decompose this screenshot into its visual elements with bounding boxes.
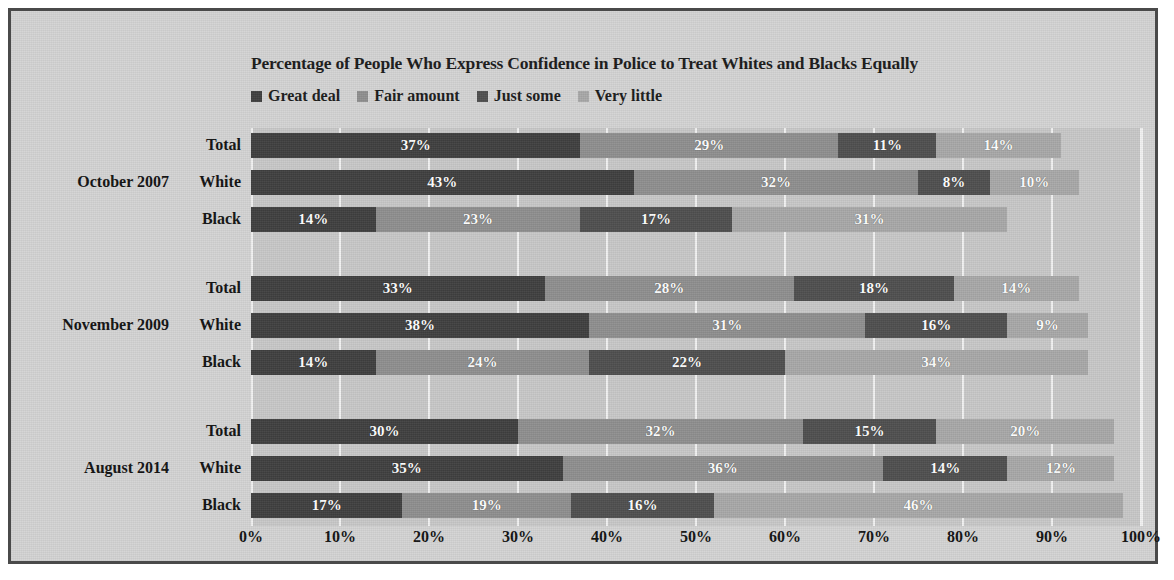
bar-segment: 12% [1007,456,1114,481]
bar-segment: 9% [1007,313,1087,338]
bar-segment: 31% [589,313,865,338]
x-tick-label: 20% [413,528,445,546]
bar-segment: 18% [794,276,954,301]
bar-segment: 16% [865,313,1007,338]
bar-segment: 23% [376,207,581,232]
category-label-total: Total [19,279,241,297]
bar-segment: 14% [251,207,376,232]
group-label: October 2007 [19,173,169,191]
x-tick-label: 60% [769,528,801,546]
bar-segment: 37% [251,133,580,158]
bar-row: 38%31%16%9% [251,313,1088,338]
bar-row: 33%28%18%14% [251,276,1079,301]
bar-segment: 20% [936,419,1114,444]
legend-label: Very little [595,87,662,105]
bar-row: 35%36%14%12% [251,456,1114,481]
bar-segment: 34% [785,350,1088,375]
bar-segment: 8% [918,170,989,195]
bar-row: 37%29%11%14% [251,133,1061,158]
bar-segment: 36% [563,456,883,481]
bar-row: 14%23%17%31% [251,207,1007,232]
bar-segment: 33% [251,276,545,301]
x-tick-label: 100% [1121,528,1161,546]
x-axis: 0%10%20%30%40%50%60%70%80%90%100% [251,528,1141,554]
gridline [1140,128,1142,526]
bar-segment: 14% [251,350,376,375]
x-tick-label: 10% [324,528,356,546]
bar-segment: 35% [251,456,563,481]
bar-segment: 11% [838,133,936,158]
bar-segment: 14% [883,456,1008,481]
bar-row: 14%24%22%34% [251,350,1088,375]
bar-row: 17%19%16%46% [251,493,1123,518]
bar-segment: 38% [251,313,589,338]
bar-segment: 16% [571,493,713,518]
legend-swatch-icon [251,91,262,102]
legend-label: Just some [494,87,561,105]
x-tick-label: 90% [1036,528,1068,546]
bar-segment: 17% [251,493,402,518]
category-label-black: Black [19,496,241,514]
group-label: November 2009 [19,316,169,334]
bar-segment: 43% [251,170,634,195]
bar-segment: 32% [634,170,919,195]
legend-swatch-icon [578,91,589,102]
x-tick-label: 40% [591,528,623,546]
chart-title: Percentage of People Who Express Confide… [251,53,918,74]
legend-item[interactable]: Very little [578,87,662,105]
bar-segment: 14% [954,276,1079,301]
legend-item[interactable]: Great deal [251,87,340,105]
legend-swatch-icon [357,91,368,102]
category-label-total: Total [19,136,241,154]
bar-segment: 32% [518,419,803,444]
bar-segment: 31% [732,207,1008,232]
category-label-total: Total [19,422,241,440]
bar-segment: 28% [545,276,794,301]
x-tick-label: 70% [858,528,890,546]
bar-segment: 15% [803,419,937,444]
bar-segment: 46% [714,493,1123,518]
legend-item[interactable]: Fair amount [357,87,459,105]
category-label-black: Black [19,210,241,228]
plot-area: 37%29%11%14%43%32%8%10%14%23%17%31%33%28… [251,128,1143,526]
bar-segment: 10% [990,170,1079,195]
bar-segment: 30% [251,419,518,444]
legend-item[interactable]: Just some [477,87,561,105]
bar-row: 43%32%8%10% [251,170,1079,195]
x-tick-label: 0% [239,528,263,546]
bar-row: 30%32%15%20% [251,419,1114,444]
x-tick-label: 30% [502,528,534,546]
legend-swatch-icon [477,91,488,102]
bar-segment: 17% [580,207,731,232]
bar-segment: 14% [936,133,1061,158]
x-tick-label: 80% [947,528,979,546]
chart-panel: Percentage of People Who Express Confide… [8,8,1158,564]
chart-legend: Great dealFair amountJust someVery littl… [251,87,662,105]
legend-label: Great deal [268,87,340,105]
bar-segment: 24% [376,350,590,375]
bar-segment: 19% [402,493,571,518]
group-label: August 2014 [19,459,169,477]
bar-segment: 22% [589,350,785,375]
category-label-black: Black [19,353,241,371]
bar-segment: 29% [580,133,838,158]
x-tick-label: 50% [680,528,712,546]
legend-label: Fair amount [374,87,459,105]
